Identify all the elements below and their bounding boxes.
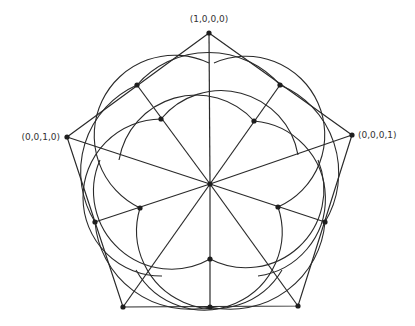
- label-top-vertex: (1,0,0,0): [190, 14, 229, 24]
- vertex-right-point: [349, 132, 354, 137]
- vertex-bottom-left-point: [120, 304, 125, 309]
- vertex-left-point: [64, 134, 69, 139]
- label-right-vertex: (0,0,0,1): [358, 130, 397, 140]
- center-point: [207, 181, 212, 186]
- simplex-diagram: (1,0,0,0) (0,0,1,0) (0,0,0,1): [0, 0, 415, 326]
- vertex-bottom-right-point: [295, 303, 300, 308]
- label-left-vertex: (0,0,1,0): [21, 132, 60, 142]
- vertex-top-point: [206, 30, 211, 35]
- inner-points: [137, 116, 280, 261]
